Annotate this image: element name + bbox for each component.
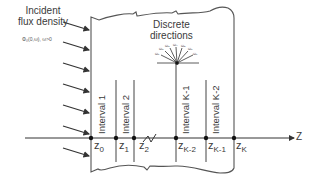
discrete-label-line1: Discrete: [150, 19, 193, 30]
omega-label: ω₅: [181, 43, 186, 48]
interval-label: Interval 2: [120, 95, 131, 134]
incident-label-line2: flux density: [18, 16, 68, 27]
omega-label: ω₃: [165, 43, 170, 48]
node-label-zk: zK: [236, 139, 247, 154]
incident-arrows: [63, 22, 89, 156]
interval-label: Interval 1: [96, 95, 107, 134]
axis-label-z: Z: [296, 131, 302, 142]
omega-label: ω₂: [159, 46, 164, 51]
incident-flux-formula: Φ₀(0,ω), ω>0: [22, 36, 52, 42]
omega-label: ω₄: [173, 42, 178, 47]
interval-label: Interval K-2: [210, 85, 221, 134]
discrete-directions-label: Discrete directions: [150, 19, 193, 41]
node-label-z1: z1: [119, 139, 129, 154]
interval-label: Interval K-1: [180, 85, 191, 134]
node-label-zk-1: zK-1: [208, 139, 226, 154]
incident-label-line1: Incident: [18, 5, 68, 16]
node-label-z0: z0: [94, 139, 104, 154]
node-label-zk-2: zK-2: [178, 139, 196, 154]
omega-label: ω₁: [155, 51, 159, 56]
omega-label: ω₇: [193, 51, 198, 56]
incident-flux-label: Incident flux density: [18, 5, 68, 27]
node-label-z2: z2: [139, 139, 149, 154]
discrete-label-line2: directions: [150, 30, 193, 41]
